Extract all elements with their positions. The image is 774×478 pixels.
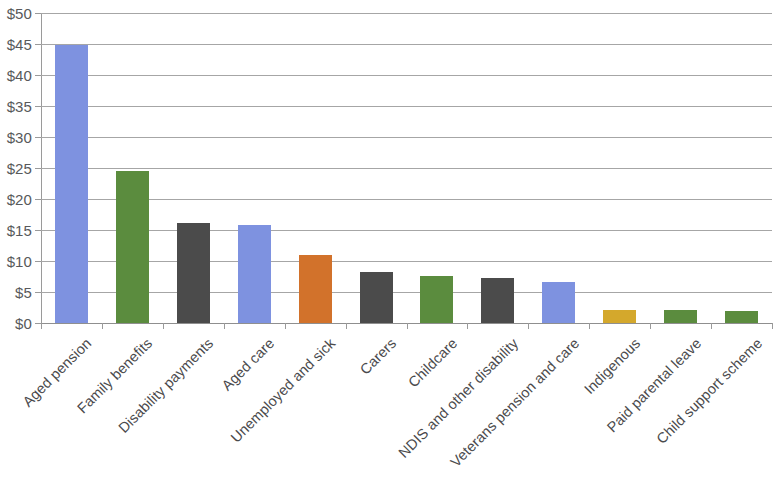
bar[interactable]: [664, 310, 697, 323]
bar[interactable]: [299, 255, 332, 323]
x-tick-label[interactable]: Child support scheme: [653, 335, 765, 447]
x-tick-label[interactable]: Aged care: [219, 335, 278, 394]
bar[interactable]: [238, 225, 271, 323]
x-tick-mark: [772, 323, 773, 329]
y-tick-label: $40: [7, 67, 32, 84]
y-tick-label: $10: [7, 253, 32, 270]
y-tick-label: $45: [7, 36, 32, 53]
x-tick-mark: [102, 323, 103, 329]
y-tick-mark: [35, 199, 41, 200]
y-tick-mark: [35, 168, 41, 169]
x-tick-mark: [589, 323, 590, 329]
x-tick-label[interactable]: Unemployed and sick: [228, 335, 339, 446]
y-tick-mark: [35, 13, 41, 14]
bar[interactable]: [603, 310, 636, 323]
bar[interactable]: [116, 171, 149, 323]
y-tick-mark: [35, 261, 41, 262]
bar[interactable]: [360, 272, 393, 323]
plot-area: [41, 13, 772, 323]
x-tick-mark: [711, 323, 712, 329]
x-tick-label[interactable]: Carers: [357, 335, 400, 378]
x-tick-mark: [528, 323, 529, 329]
bar[interactable]: [481, 278, 514, 323]
y-tick-mark: [35, 75, 41, 76]
x-tick-mark: [407, 323, 408, 329]
y-tick-mark: [35, 137, 41, 138]
bar[interactable]: [542, 282, 575, 323]
x-tick-mark: [163, 323, 164, 329]
bars-layer: [41, 13, 772, 323]
y-tick-label: $20: [7, 191, 32, 208]
bar-chart: $50$45$40$35$30$25$20$15$10$5$0 Aged pen…: [0, 0, 774, 478]
y-tick-mark: [35, 292, 41, 293]
x-tick-label[interactable]: Indigenous: [581, 335, 643, 397]
x-tick-mark: [467, 323, 468, 329]
y-tick-mark: [35, 230, 41, 231]
bar[interactable]: [177, 223, 210, 323]
x-tick-mark: [650, 323, 651, 329]
bar[interactable]: [55, 45, 88, 323]
y-tick-label: $25: [7, 160, 32, 177]
y-tick-label: $5: [15, 284, 32, 301]
y-tick-label: $30: [7, 129, 32, 146]
y-tick-label: $15: [7, 222, 32, 239]
y-tick-label: $35: [7, 98, 32, 115]
x-tick-mark: [346, 323, 347, 329]
y-tick-mark: [35, 44, 41, 45]
x-tick-mark: [224, 323, 225, 329]
bar[interactable]: [725, 311, 758, 323]
x-tick-mark: [285, 323, 286, 329]
x-tick-label[interactable]: Veterans pension and care: [447, 335, 582, 470]
x-tick-label[interactable]: Childcare: [405, 335, 460, 390]
y-tick-mark: [35, 106, 41, 107]
y-tick-mark: [35, 323, 41, 324]
y-tick-label: $0: [15, 315, 32, 332]
bar[interactable]: [420, 276, 453, 323]
x-tick-label[interactable]: NDIS and other disability: [395, 335, 521, 461]
y-tick-label: $50: [7, 5, 32, 22]
x-tick-mark: [41, 323, 42, 329]
